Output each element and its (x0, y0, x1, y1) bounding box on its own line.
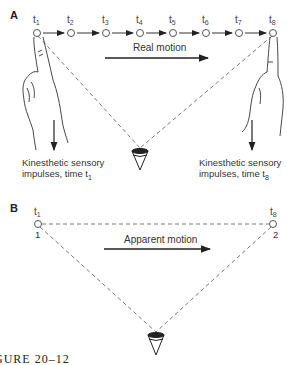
right-hand-icon (242, 37, 283, 136)
time-label-t8: t8 (269, 14, 276, 28)
panel-b-time-t1: t1 (34, 206, 41, 220)
left-kinesthetic-caption-line2: impulses, time t1 (22, 168, 92, 183)
figure-caption: GURE 20–12 (0, 352, 70, 365)
left-kinesthetic-caption-line1: Kinesthetic sensory (22, 157, 104, 168)
apparent-motion-label: Apparent motion (124, 234, 197, 245)
time-label-t1: t1 (33, 14, 40, 28)
left-hand-icon (23, 37, 68, 150)
panel-b-number-1: 1 (35, 229, 40, 240)
right-kinesthetic-caption-line1: Kinesthetic sensory (199, 157, 281, 168)
panel-b-number-2: 2 (273, 229, 278, 240)
panel-b-time-t8: t8 (270, 206, 277, 220)
eye-icon-b (148, 333, 164, 356)
time-label-t6: t6 (202, 14, 209, 28)
panel-b-label: B (10, 203, 18, 214)
time-label-t2: t2 (67, 14, 74, 28)
time-label-t7: t7 (235, 14, 242, 28)
time-label-t3: t3 (102, 14, 109, 28)
panel-a-label: A (10, 10, 18, 21)
real-motion-label: Real motion (133, 42, 186, 53)
eye-icon-a (132, 149, 148, 171)
right-kinesthetic-caption-line2: impulses, time t8 (199, 168, 269, 183)
time-label-t4: t4 (136, 14, 143, 28)
time-label-t5: t5 (169, 14, 176, 28)
